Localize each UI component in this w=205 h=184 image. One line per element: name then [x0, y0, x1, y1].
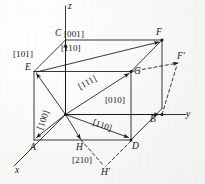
diagram-canvas: z y x A B C D E F G H F' H' [001] [101] … — [0, 0, 205, 184]
miller-label-001: [001] — [64, 30, 84, 39]
vertex-label-A: A — [30, 143, 36, 153]
vertex-label-F-prime: F' — [177, 52, 185, 62]
axis-label-x: x — [15, 166, 19, 176]
vector-210 — [66, 115, 81, 140]
vertex-label-D: D — [132, 142, 139, 152]
box-top-face — [34, 40, 162, 72]
box-right-face — [131, 40, 162, 140]
diagram-vector-layer — [0, 0, 205, 184]
vertex-label-H: H — [76, 143, 83, 153]
miller-label-101: [101] — [13, 50, 33, 59]
vertex-label-G: G — [134, 67, 141, 77]
vertex-label-F: F — [156, 28, 162, 38]
miller-label-110-top: [110] — [61, 44, 81, 53]
axis-label-y: y — [186, 110, 190, 120]
vertex-label-B: B — [150, 115, 156, 125]
vertex-label-H-prime: H' — [101, 168, 110, 178]
miller-label-210: [210] — [72, 156, 92, 165]
axis-label-z: z — [68, 2, 72, 12]
vertex-label-C: C — [55, 29, 61, 39]
vertex-label-E: E — [25, 63, 31, 73]
miller-label-010: [010] — [105, 96, 125, 105]
